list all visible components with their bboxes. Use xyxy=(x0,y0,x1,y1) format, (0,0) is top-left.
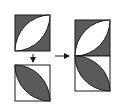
diagram-canvas xyxy=(0,0,115,108)
tile-b xyxy=(15,65,50,101)
tile-c-top xyxy=(75,20,110,56)
tile-a xyxy=(15,15,50,51)
tile-c-bottom xyxy=(75,56,110,91)
